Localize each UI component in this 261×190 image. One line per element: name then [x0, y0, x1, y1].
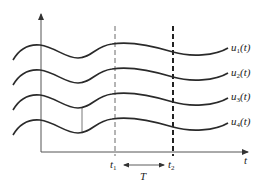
t2-label: t2: [168, 158, 175, 172]
label-u1: u1(t): [231, 41, 251, 55]
label-u3: u3(t): [231, 90, 251, 104]
t1-label: t1: [110, 158, 117, 172]
waveform-u4: [13, 118, 228, 135]
interval-label: T: [140, 170, 147, 182]
waveform-u3: [13, 93, 228, 110]
diagram-canvas: u1(t) u2(t) u3(t) u4(t) t t1 t2 T: [0, 0, 261, 190]
label-u4: u4(t): [231, 115, 251, 129]
waveform-u1: [13, 43, 228, 60]
label-u2: u2(t): [231, 66, 251, 80]
x-axis-label: t: [244, 154, 248, 166]
waveform-u2: [13, 68, 228, 85]
